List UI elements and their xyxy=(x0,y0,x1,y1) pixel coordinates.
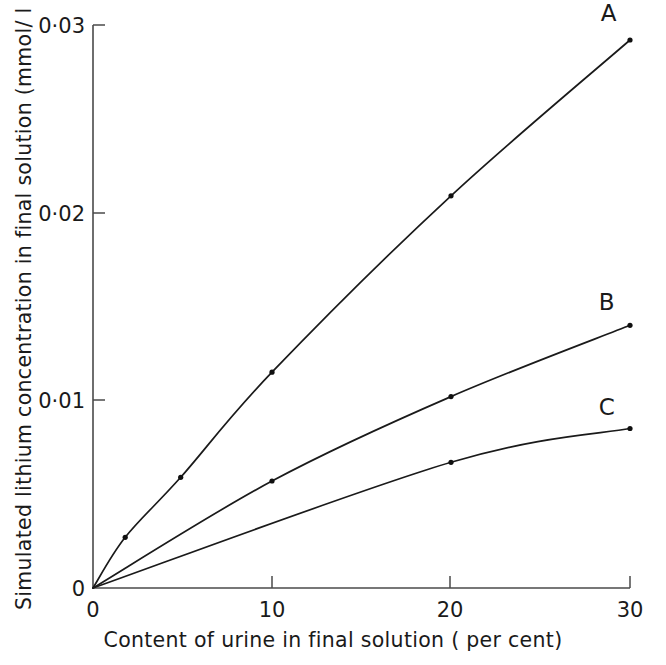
y-tick-label-0: 0 xyxy=(72,577,85,601)
data-series-layer xyxy=(93,37,633,588)
data-point xyxy=(448,460,453,465)
data-point xyxy=(448,193,453,198)
y-tick-label-001: 0·01 xyxy=(38,389,85,413)
y-tick-label-002: 0·02 xyxy=(38,202,85,226)
series-line-b xyxy=(93,325,630,588)
x-axis-ticks xyxy=(272,576,630,588)
line-chart-plot: 0·03 0·02 0·01 0 0 10 20 30 ABC xyxy=(0,0,666,665)
x-tick-label-20: 20 xyxy=(437,598,464,622)
y-tick-label-003: 0·03 xyxy=(38,14,85,38)
series-label-a: A xyxy=(601,0,617,26)
series-a xyxy=(93,37,633,588)
series-label-b: B xyxy=(599,289,615,315)
x-tick-label-10: 10 xyxy=(259,598,286,622)
series-b xyxy=(93,323,633,588)
data-point xyxy=(123,535,128,540)
data-point xyxy=(627,323,632,328)
data-point xyxy=(269,370,274,375)
x-tick-label-30: 30 xyxy=(617,598,644,622)
y-axis-ticks xyxy=(93,25,105,400)
data-point xyxy=(627,37,632,42)
series-line-a xyxy=(93,40,630,588)
series-line-c xyxy=(93,429,630,589)
chart-figure: 0·03 0·02 0·01 0 0 10 20 30 ABC Content … xyxy=(0,0,666,665)
data-point xyxy=(627,426,632,431)
y-axis-title: Simulated lithium concentration in final… xyxy=(12,10,36,610)
series-annotation-layer: ABC xyxy=(599,0,617,420)
x-axis-title: Content of urine in final solution ( per… xyxy=(0,628,666,652)
data-point xyxy=(178,475,183,480)
series-c xyxy=(93,426,633,588)
data-point xyxy=(448,394,453,399)
x-tick-label-0: 0 xyxy=(86,598,99,622)
series-label-c: C xyxy=(599,394,615,420)
data-point xyxy=(269,478,274,483)
